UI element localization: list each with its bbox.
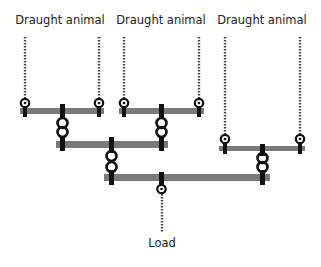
clamp [260,170,265,185]
animal-label-1: Draught animal [15,13,105,27]
eye-hook-icon [95,99,103,107]
clamp [223,144,227,154]
eye-hook-icon [195,99,203,107]
load-hook-icon [157,185,165,193]
clamp [60,136,65,151]
animal-label-3: Draught animal [217,13,307,27]
clamp [159,136,164,151]
eye-hook-icon [21,99,29,107]
evener-bar [104,174,270,181]
load-label: Load [148,236,176,250]
eye-hook-icon [296,135,304,143]
eye-hook-icon [221,135,229,143]
whippletree-diagram: Draught animal Draught animal Draught an… [0,0,321,267]
clamp [109,170,114,185]
animal-label-2: Draught animal [116,13,206,27]
eye-hook-icon [120,99,128,107]
clamp [60,104,65,118]
clamp [298,144,302,154]
clamp [159,104,164,118]
